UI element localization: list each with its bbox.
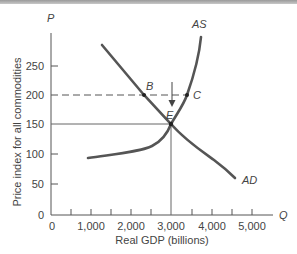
point-e — [169, 122, 173, 126]
svg-text:250: 250 — [26, 60, 44, 72]
point-b — [142, 93, 146, 97]
svg-text:1,000: 1,000 — [77, 220, 105, 232]
x-ticks — [71, 209, 252, 215]
y-ticks — [51, 66, 58, 184]
svg-text:100: 100 — [26, 148, 44, 160]
y-axis-symbol: P — [47, 12, 55, 24]
svg-text:3,000: 3,000 — [157, 220, 185, 232]
svg-text:200: 200 — [26, 89, 44, 101]
x-axis-symbol: Q — [279, 209, 288, 221]
svg-text:4,000: 4,000 — [198, 220, 226, 232]
svg-text:50: 50 — [32, 178, 44, 190]
point-e-label: E — [166, 109, 174, 121]
point-c-label: C — [193, 89, 201, 101]
as-curve — [88, 37, 201, 158]
y-tick-labels: 250 200 150 100 50 0 — [26, 60, 44, 221]
svg-text:150: 150 — [26, 118, 44, 130]
ad-curve-label: AD — [241, 174, 257, 186]
svg-text:5,000: 5,000 — [238, 220, 266, 232]
ad-as-chart: P Q 0 1,000 2,000 3,000 4,000 5,000 250 … — [0, 0, 297, 254]
x-axis-title: Real GDP (billions) — [115, 234, 208, 246]
as-curve-label: AS — [191, 18, 207, 30]
point-b-label: B — [146, 80, 153, 92]
y-axis-title: Price index for all commodities — [11, 57, 23, 207]
svg-text:2,000: 2,000 — [117, 220, 145, 232]
x-tick-labels: 0 1,000 2,000 3,000 4,000 5,000 — [49, 220, 266, 232]
point-c — [185, 93, 189, 97]
svg-text:0: 0 — [38, 209, 44, 221]
svg-text:0: 0 — [49, 220, 55, 232]
